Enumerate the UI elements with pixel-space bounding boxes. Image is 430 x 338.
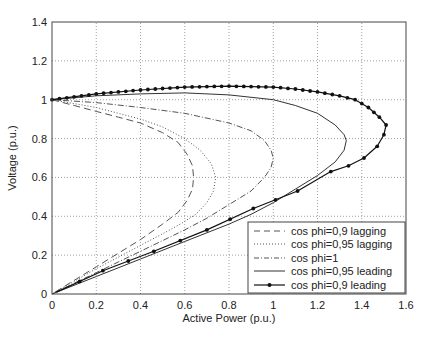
data-marker: [338, 94, 342, 98]
data-marker: [251, 207, 255, 211]
data-marker: [65, 96, 69, 100]
series-line-2: [52, 100, 273, 294]
y-tick-label: 1.2: [32, 55, 47, 67]
data-marker: [308, 89, 312, 93]
y-tick-label: 1.4: [32, 16, 47, 28]
legend-label-0: cos phi=0,9 lagging: [291, 225, 386, 237]
data-marker: [153, 87, 157, 91]
data-marker: [146, 88, 150, 92]
x-axis-label: Active Power (p.u.): [183, 312, 276, 324]
data-marker: [274, 198, 278, 202]
y-axis-label: Voltage (p.u.): [6, 125, 18, 190]
data-marker: [131, 89, 135, 93]
data-marker: [198, 85, 202, 89]
x-tick-label: 1.4: [354, 299, 369, 311]
data-marker: [139, 88, 143, 92]
data-marker: [296, 189, 300, 193]
data-marker: [375, 144, 379, 148]
data-marker: [78, 280, 82, 284]
legend-label-2: cos phi=1: [291, 252, 338, 264]
data-marker: [227, 84, 231, 88]
x-tick-label: 0.6: [177, 299, 192, 311]
data-marker: [126, 259, 130, 263]
data-marker: [94, 92, 98, 96]
data-marker: [346, 96, 350, 100]
data-marker: [205, 85, 209, 89]
data-marker: [72, 95, 76, 99]
x-tick-label: 1: [270, 299, 276, 311]
x-tick-label: 1.2: [310, 299, 325, 311]
data-marker: [124, 89, 128, 93]
data-marker: [286, 87, 290, 91]
data-marker: [176, 86, 180, 90]
data-marker: [205, 228, 209, 232]
data-marker: [101, 269, 105, 273]
data-marker: [279, 86, 283, 90]
data-marker: [228, 217, 232, 221]
data-marker: [58, 97, 62, 101]
x-tick-label: 1.6: [398, 299, 413, 311]
y-tick-label: 0.6: [32, 171, 47, 183]
legend-label-4: cos phi=0,9 leading: [291, 279, 386, 291]
data-marker: [353, 98, 357, 102]
x-tick-labels: 00.20.40.60.811.21.41.6: [49, 299, 414, 311]
data-marker: [264, 85, 268, 89]
x-tick-label: 0.2: [89, 299, 104, 311]
data-marker: [382, 133, 386, 137]
data-marker: [235, 84, 239, 88]
y-tick-label: 0.4: [32, 210, 47, 222]
data-marker: [347, 164, 351, 168]
data-marker: [220, 84, 224, 88]
series-line-1: [52, 100, 216, 294]
data-marker: [330, 93, 334, 97]
y-tick-label: 0: [41, 288, 47, 300]
y-tick-labels: 00.20.40.60.811.21.4: [32, 16, 47, 300]
data-marker: [109, 91, 113, 95]
data-marker: [362, 156, 366, 160]
data-marker: [212, 85, 216, 89]
data-marker: [301, 88, 305, 92]
legend-label-1: cos phi=0,95 lagging: [291, 238, 392, 250]
x-tick-label: 0.4: [133, 299, 148, 311]
data-marker: [80, 94, 84, 98]
data-marker: [168, 86, 172, 90]
data-marker: [190, 85, 194, 89]
data-marker: [178, 239, 182, 243]
data-marker: [152, 249, 156, 253]
legend: cos phi=0,9 lagging cos phi=0,95 lagging…: [248, 222, 405, 293]
data-marker: [117, 90, 121, 94]
data-marker: [316, 90, 320, 94]
data-marker: [329, 170, 333, 174]
legend-marker-icon: [268, 283, 272, 287]
y-tick-label: 1: [41, 94, 47, 106]
data-marker: [249, 85, 253, 89]
data-marker: [294, 87, 298, 91]
y-tick-label: 0.2: [32, 249, 47, 261]
data-marker: [161, 87, 165, 91]
data-marker: [384, 123, 388, 127]
data-marker: [271, 85, 275, 89]
data-marker: [323, 91, 327, 95]
data-marker: [360, 102, 364, 106]
data-marker: [372, 110, 376, 114]
data-marker: [183, 85, 187, 89]
data-marker: [257, 85, 261, 89]
series-line-0: [52, 100, 194, 294]
data-marker: [242, 85, 246, 89]
legend-label-3: cos phi=0,95 leading: [291, 265, 392, 277]
x-tick-label: 0: [49, 299, 55, 311]
data-marker: [378, 115, 382, 119]
x-tick-label: 0.8: [221, 299, 236, 311]
data-marker: [87, 93, 91, 97]
pv-curve-chart: 00.20.40.60.811.21.41.6 00.20.40.60.811.…: [0, 0, 430, 338]
y-tick-label: 0.8: [32, 133, 47, 145]
data-marker: [367, 106, 371, 110]
data-marker: [102, 91, 106, 95]
